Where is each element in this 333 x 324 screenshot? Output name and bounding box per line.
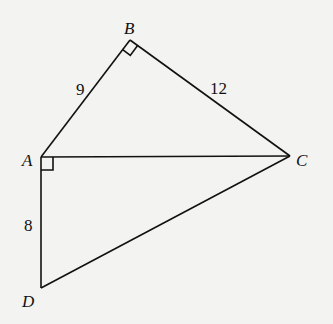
segment-ab bbox=[41, 40, 130, 157]
point-label-b: B bbox=[124, 19, 135, 38]
right-angle-mark-a bbox=[41, 157, 53, 170]
geometry-diagram: B A C D 9 12 8 bbox=[0, 0, 333, 324]
diagram-svg: B A C D 9 12 8 bbox=[0, 0, 333, 324]
point-label-c: C bbox=[296, 151, 308, 170]
point-label-a: A bbox=[21, 151, 33, 170]
length-label-bc: 12 bbox=[210, 79, 227, 98]
point-label-d: D bbox=[21, 292, 35, 311]
segment-dc bbox=[41, 156, 290, 288]
segment-bc bbox=[130, 40, 290, 156]
length-label-ab: 9 bbox=[76, 80, 85, 99]
segment-ac bbox=[41, 156, 290, 157]
length-label-ad: 8 bbox=[24, 216, 33, 235]
